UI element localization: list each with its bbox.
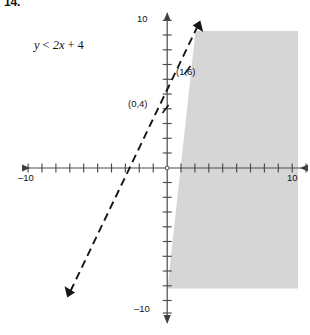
y-axis-max-label: 10 — [137, 13, 148, 24]
point-label-1-6: (1,6) — [176, 66, 196, 77]
x-axis-max-label: 10 — [287, 172, 298, 183]
worksheet-problem: 14. y<2x+4 — [0, 0, 310, 335]
x-axis-min-label: –10 — [18, 172, 34, 183]
point-label-0-4: (0,4) — [128, 98, 148, 109]
coordinate-plane — [0, 0, 310, 335]
y-axis-min-label: –10 — [134, 303, 150, 314]
